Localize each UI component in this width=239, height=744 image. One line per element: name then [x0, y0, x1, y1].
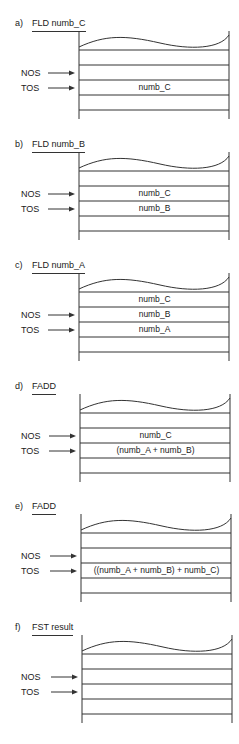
stack-cell-tos: numb_A — [80, 322, 229, 337]
stack-cell-nos — [82, 548, 231, 563]
stack-cell-nos: numb_C — [80, 186, 229, 201]
nos-label: NOS — [21, 431, 41, 441]
stack-cell — [80, 216, 229, 231]
tos-arrow-icon — [48, 328, 75, 333]
stack-cell-nos: numb_C — [81, 428, 230, 443]
nos-arrow-icon — [48, 71, 75, 76]
stack-cell — [83, 699, 232, 714]
tos-arrow-icon — [48, 207, 75, 212]
stack-cell — [83, 639, 232, 654]
panel-e: e) FADD NOS TOS ((numb_A + numb_B) + num… — [0, 490, 239, 611]
stack-cell-tos — [83, 684, 232, 699]
stack-cell — [80, 337, 229, 352]
nos-arrow-icon — [49, 434, 76, 439]
stack-cell-tos: ((numb_A + numb_B) + numb_C) — [82, 563, 231, 578]
panel-c: c) FLD numb_A NOS TOS numb_C numb_B numb… — [0, 249, 239, 370]
stack-cell — [83, 654, 232, 669]
panel-f: f) FST result NOS TOS — [0, 611, 239, 732]
stack-cell — [80, 35, 229, 50]
stack-cell — [80, 65, 229, 80]
stack-cell — [80, 277, 229, 292]
nos-arrow-icon — [48, 313, 75, 318]
stack-cell — [80, 95, 229, 110]
stack-cell-nos — [83, 669, 232, 684]
stack-cell — [80, 50, 229, 65]
panel-b: b) FLD numb_B NOS TOS numb_C numb_B — [0, 128, 239, 249]
tos-arrow-icon — [48, 86, 75, 91]
nos-arrow-icon — [51, 675, 78, 680]
stack-cell — [80, 171, 229, 186]
nos-label: NOS — [21, 68, 41, 78]
tos-arrow-icon — [49, 449, 76, 454]
stack-cell-nos: numb_B — [80, 307, 229, 322]
stack-cell — [81, 413, 230, 428]
stack-cell-tos: numb_C — [80, 80, 229, 95]
panel-d: d) FADD NOS TOS numb_C (numb_A + numb_B) — [0, 370, 239, 491]
nos-arrow-icon — [48, 192, 75, 197]
tos-label: TOS — [21, 204, 39, 214]
stack-cell — [81, 458, 230, 473]
stack-cell — [80, 156, 229, 171]
tos-arrow-icon — [51, 690, 78, 695]
nos-label: NOS — [21, 551, 41, 561]
nos-label: NOS — [21, 310, 41, 320]
nos-label: NOS — [21, 189, 41, 199]
nos-arrow-icon — [50, 554, 77, 559]
stack-cell-tos: numb_B — [80, 201, 229, 216]
stack-cell — [81, 398, 230, 413]
stack-cell — [82, 533, 231, 548]
stack-cell: numb_C — [80, 292, 229, 307]
stack-cell — [82, 578, 231, 593]
tos-arrow-icon — [50, 569, 77, 574]
tos-label: TOS — [21, 83, 39, 93]
stack-cell — [82, 518, 231, 533]
panel-a: a) FLD numb_C NOS TOS numb_C — [0, 7, 239, 128]
tos-label: TOS — [21, 687, 39, 697]
nos-label: NOS — [21, 672, 41, 682]
stack-cell-tos: (numb_A + numb_B) — [81, 443, 230, 458]
tos-label: TOS — [21, 566, 39, 576]
tos-label: TOS — [21, 446, 39, 456]
tos-label: TOS — [21, 325, 39, 335]
